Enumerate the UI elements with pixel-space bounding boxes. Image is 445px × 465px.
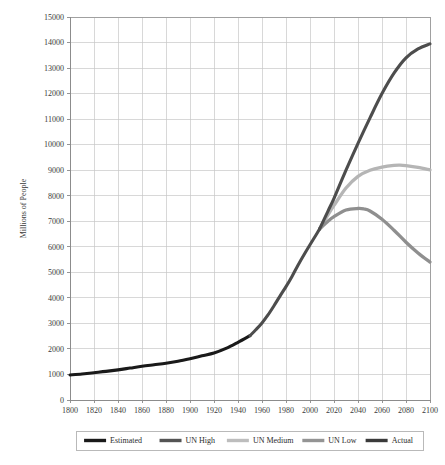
y-tick-label: 15000 xyxy=(44,13,64,22)
axes xyxy=(67,17,430,403)
x-tick-label: 1920 xyxy=(206,406,222,415)
x-tick-label: 1880 xyxy=(158,406,174,415)
y-tick-label: 10000 xyxy=(44,140,64,149)
legend-label: Actual xyxy=(392,436,414,445)
legend-label: Estimated xyxy=(110,436,142,445)
x-tick-label: 2000 xyxy=(302,406,318,415)
y-tick-label: 7000 xyxy=(48,217,64,226)
y-tick-label: 3000 xyxy=(48,319,64,328)
x-tick-label: 2020 xyxy=(326,406,342,415)
x-tick-label: 1960 xyxy=(254,406,270,415)
y-tick-label: 12000 xyxy=(44,89,64,98)
chart-legend: EstimatedUN HighUN MediumUN LowActual xyxy=(76,431,424,450)
legend-label: UN Medium xyxy=(253,436,294,445)
x-tick-label: 2080 xyxy=(398,406,414,415)
y-tick-label: 4000 xyxy=(48,294,64,303)
y-axis-title: Millions of People xyxy=(19,178,28,238)
y-tick-label: 5000 xyxy=(48,268,64,277)
legend-label: UN Low xyxy=(328,436,356,445)
series-line-estimated xyxy=(70,336,250,375)
series-line-un-low xyxy=(320,208,430,262)
axis-titles: Millions of People xyxy=(19,178,28,238)
population-projection-chart: 0100020003000400050006000700080009000100… xyxy=(0,0,445,465)
y-tick-label: 11000 xyxy=(44,115,64,124)
y-tick-label: 2000 xyxy=(48,345,64,354)
y-tick-label: 8000 xyxy=(48,192,64,201)
x-tick-label: 1900 xyxy=(182,406,198,415)
x-tick-label: 1820 xyxy=(86,406,102,415)
chart-canvas: 0100020003000400050006000700080009000100… xyxy=(0,0,445,465)
x-tick-label: 2040 xyxy=(350,406,366,415)
x-tick-label: 1940 xyxy=(230,406,246,415)
y-tick-label: 9000 xyxy=(48,166,64,175)
x-tick-label: 2100 xyxy=(422,406,438,415)
x-tick-label: 2060 xyxy=(374,406,390,415)
series-line-actual xyxy=(250,229,320,336)
y-tick-label: 0 xyxy=(60,396,64,405)
gridlines xyxy=(70,17,430,400)
x-tick-label: 1800 xyxy=(62,406,78,415)
y-tick-label: 14000 xyxy=(44,38,64,47)
x-tick-label: 1860 xyxy=(134,406,150,415)
x-tick-label: 1980 xyxy=(278,406,294,415)
tick-labels: 0100020003000400050006000700080009000100… xyxy=(44,13,438,415)
x-tick-label: 1840 xyxy=(110,406,126,415)
legend-label: UN High xyxy=(186,436,216,445)
y-tick-label: 1000 xyxy=(48,370,64,379)
y-tick-label: 13000 xyxy=(44,64,64,73)
y-tick-label: 6000 xyxy=(48,243,64,252)
